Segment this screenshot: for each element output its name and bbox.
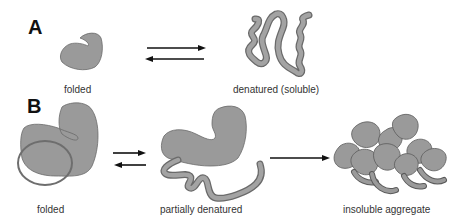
panel-a-label: A	[28, 16, 42, 39]
diagram-canvas	[0, 0, 475, 223]
denatured-chain-a	[249, 14, 309, 74]
label-denatured-soluble: denatured (soluble)	[233, 84, 319, 95]
equilibrium-arrows-b	[113, 150, 146, 168]
label-partially-denatured: partially denatured	[160, 204, 242, 215]
label-folded-b: folded	[37, 204, 64, 215]
equilibrium-arrows-a	[145, 45, 206, 62]
folded-protein-a	[60, 33, 102, 70]
partially-denatured-protein	[161, 106, 261, 198]
label-folded-a: folded	[64, 84, 91, 95]
insoluble-aggregate	[334, 114, 446, 191]
label-insoluble-aggregate: insoluble aggregate	[343, 204, 430, 215]
panel-b-label: B	[27, 95, 41, 118]
irreversible-arrow	[270, 155, 330, 161]
